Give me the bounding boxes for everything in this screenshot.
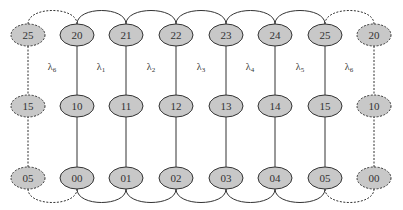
node-13: 13 xyxy=(209,95,243,117)
node-25: 25 xyxy=(11,24,45,46)
node-05: 05 xyxy=(308,167,342,189)
node-label: 14 xyxy=(270,100,282,112)
top-ring-arc xyxy=(77,11,126,25)
node-label: 25 xyxy=(320,29,332,41)
node-label: 15 xyxy=(23,100,35,112)
wavelength-label: λ2 xyxy=(147,61,156,74)
node-label: 13 xyxy=(221,100,233,112)
bottom-ring-arc xyxy=(325,189,374,203)
node-label: 25 xyxy=(23,29,35,41)
node-11: 11 xyxy=(109,95,143,117)
node-label: 05 xyxy=(320,172,332,184)
top-ring-arc xyxy=(325,11,374,25)
nodes-layer: 2515052010002111012212022313032414042515… xyxy=(11,24,391,189)
node-label: 10 xyxy=(369,100,381,112)
wavelength-label: λ6 xyxy=(345,61,354,74)
top-ring-arc xyxy=(28,11,77,25)
node-label: 22 xyxy=(171,29,182,41)
node-label: 10 xyxy=(72,100,84,112)
node-label: 24 xyxy=(270,29,282,41)
node-02: 02 xyxy=(159,167,193,189)
wavelength-label: λ6 xyxy=(48,61,57,74)
node-label: 20 xyxy=(72,29,84,41)
wavelength-labels: λ6λ1λ2λ3λ4λ5λ6 xyxy=(48,61,354,74)
top-ring-arc xyxy=(226,11,275,25)
node-20: 20 xyxy=(357,24,391,46)
node-04: 04 xyxy=(258,167,292,189)
node-label: 03 xyxy=(221,172,233,184)
node-10: 10 xyxy=(60,95,94,117)
node-25: 25 xyxy=(308,24,342,46)
node-20: 20 xyxy=(60,24,94,46)
bottom-ring-arc xyxy=(28,189,77,203)
node-24: 24 xyxy=(258,24,292,46)
node-label: 21 xyxy=(121,29,132,41)
bottom-ring-arc xyxy=(176,189,226,203)
wavelength-label: λ3 xyxy=(197,61,206,74)
node-label: 00 xyxy=(369,172,381,184)
node-05: 05 xyxy=(11,167,45,189)
node-15: 15 xyxy=(11,95,45,117)
node-14: 14 xyxy=(258,95,292,117)
bottom-ring-arc xyxy=(275,189,325,203)
node-22: 22 xyxy=(159,24,193,46)
top-ring-arc xyxy=(275,11,325,25)
node-00: 00 xyxy=(60,167,94,189)
node-12: 12 xyxy=(159,95,193,117)
node-00: 00 xyxy=(357,167,391,189)
node-label: 02 xyxy=(171,172,182,184)
node-21: 21 xyxy=(109,24,143,46)
wavelength-label: λ5 xyxy=(296,61,305,74)
node-label: 23 xyxy=(221,29,233,41)
node-label: 12 xyxy=(171,100,182,112)
bottom-ring-arc xyxy=(126,189,176,203)
node-label: 15 xyxy=(320,100,332,112)
bottom-ring-arc xyxy=(77,189,126,203)
wavelength-label: λ4 xyxy=(246,61,255,74)
wavelength-label: λ1 xyxy=(97,61,106,74)
node-label: 00 xyxy=(72,172,84,184)
node-label: 01 xyxy=(121,172,132,184)
node-15: 15 xyxy=(308,95,342,117)
top-ring-arc xyxy=(176,11,226,25)
bottom-ring-arc xyxy=(226,189,275,203)
top-ring-arc xyxy=(126,11,176,25)
node-10: 10 xyxy=(357,95,391,117)
node-label: 11 xyxy=(121,100,132,112)
node-label: 05 xyxy=(23,172,35,184)
node-23: 23 xyxy=(209,24,243,46)
ring-topology-diagram: 2515052010002111012212022313032414042515… xyxy=(0,0,403,210)
node-label: 20 xyxy=(369,29,381,41)
node-03: 03 xyxy=(209,167,243,189)
node-label: 04 xyxy=(270,172,282,184)
node-01: 01 xyxy=(109,167,143,189)
